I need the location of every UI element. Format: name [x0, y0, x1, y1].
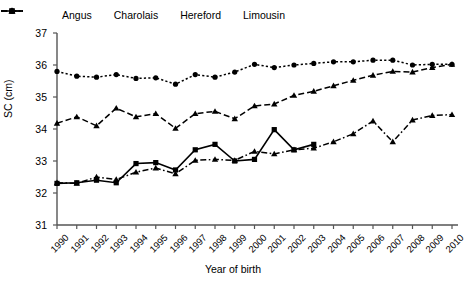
data-point-marker [291, 62, 296, 67]
data-point-marker [133, 169, 139, 175]
data-point-marker [272, 127, 277, 132]
data-point-marker [212, 75, 217, 80]
data-point-marker [153, 165, 159, 171]
scrotal-circumference-line-chart: AngusCharolaisHerefordLimousin SC (cm) Y… [0, 0, 466, 288]
data-point-marker [212, 142, 217, 147]
data-point-marker [429, 112, 435, 118]
data-point-marker [94, 75, 99, 80]
series-charolais [54, 61, 455, 131]
data-point-marker [390, 58, 395, 63]
data-point-marker [113, 105, 119, 111]
data-point-marker [193, 72, 198, 77]
data-point-marker [153, 75, 158, 80]
data-point-marker [350, 131, 356, 137]
data-point-marker [54, 69, 59, 74]
data-point-marker [212, 108, 218, 114]
data-point-marker [114, 72, 119, 77]
data-point-marker [173, 82, 178, 87]
data-point-marker [311, 61, 316, 66]
data-point-marker [74, 74, 79, 79]
data-point-marker [113, 176, 119, 182]
data-point-marker [351, 59, 356, 64]
plot-area [0, 0, 466, 288]
data-point-marker [133, 76, 138, 81]
data-point-marker [272, 65, 277, 70]
data-point-marker [370, 58, 375, 63]
series-line [57, 130, 314, 184]
data-point-marker [193, 147, 198, 152]
data-point-marker [251, 148, 257, 154]
data-point-marker [370, 118, 376, 124]
data-point-marker [252, 157, 257, 162]
data-point-marker [74, 114, 80, 120]
data-point-marker [153, 110, 159, 116]
data-point-marker [252, 62, 257, 67]
data-point-marker [232, 69, 237, 74]
data-point-marker [291, 92, 297, 98]
data-point-marker [410, 62, 415, 67]
data-point-marker [133, 161, 138, 166]
data-point-marker [370, 72, 376, 78]
series-limousin [54, 111, 455, 185]
data-point-marker [153, 160, 158, 165]
data-point-marker [331, 59, 336, 64]
